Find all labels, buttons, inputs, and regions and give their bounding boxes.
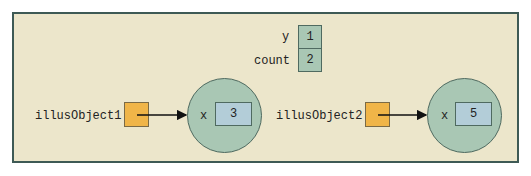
reference-arrows (0, 0, 531, 176)
